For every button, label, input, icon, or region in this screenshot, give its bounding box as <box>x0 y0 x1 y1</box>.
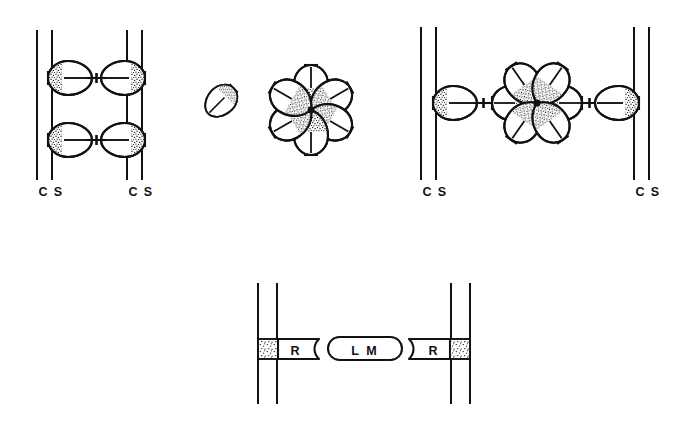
capsule-lm: L M <box>328 337 402 360</box>
label-c-right: C <box>128 185 137 199</box>
box-r-left: R <box>278 339 319 359</box>
box-r-right: R <box>409 339 450 359</box>
rosette-hub <box>533 99 540 106</box>
label-s-left: S <box>438 185 446 199</box>
box-r-left-label: R <box>290 344 299 358</box>
stipple-square-left <box>258 339 278 359</box>
rosette-hub <box>308 107 315 114</box>
label-c-left: C <box>38 185 47 199</box>
stipple-square-right <box>450 339 470 359</box>
figure-canvas: C S C S <box>0 0 688 421</box>
body-row2-left <box>47 122 92 158</box>
body-row2-right <box>101 122 146 158</box>
label-s-right: S <box>651 185 659 199</box>
label-s-left: S <box>54 185 62 199</box>
body-left <box>432 85 477 121</box>
label-c-right: C <box>635 185 644 199</box>
body-row1-right <box>101 60 146 96</box>
body-row1-left <box>47 60 92 96</box>
box-r-right-label: R <box>428 344 437 358</box>
label-c-left: C <box>422 185 431 199</box>
body-right <box>595 85 640 121</box>
capsule-lm-label: L M <box>351 344 378 358</box>
label-s-right: S <box>144 185 152 199</box>
